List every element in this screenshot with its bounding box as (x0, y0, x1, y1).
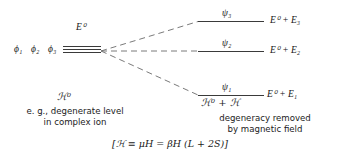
left-caption-line-1: e. g., degenerate level (0, 106, 150, 117)
degenerate-energy-level-triple (63, 46, 101, 53)
split-level-3-energy-label: E⁰ + E₃ (270, 16, 300, 26)
wavefunction-label-phi2: ϕ₂ (31, 45, 39, 55)
zeeman-splitting-diagram: ϕ₁ ϕ₂ ϕ₃ E⁰ ℋ⁰ e. g., degenerate level i… (0, 0, 340, 159)
split-level-2-energy-label: E⁰ + E₂ (270, 46, 300, 56)
wavefunction-label-phi1: ϕ₁ (14, 45, 22, 55)
degenerate-level-energy-label: E⁰ (76, 23, 86, 33)
hamiltonian-formula: [ℋ ≡ μH = βH (L + 2S)] (0, 139, 340, 149)
split-level-1-wavefunction-label: ψ₁ (222, 83, 231, 93)
degenerate-level-line-bottom (63, 52, 101, 53)
left-hamiltonian-label: ℋ⁰ (57, 92, 71, 102)
split-level-3-wavefunction-label: ψ₃ (222, 9, 231, 19)
split-level-1-energy-label: E⁰ + E₁ (267, 90, 297, 100)
right-hamiltonian-label: ℋ⁰ + ℋ (201, 98, 240, 108)
split-level-2-wavefunction-label: ψ₂ (222, 39, 231, 49)
hamiltonian-formula-text: [ℋ ≡ μH = βH (L + 2S)] (112, 138, 228, 149)
right-caption: degeneracy removed by magnetic field (190, 113, 340, 136)
split-level-1-line (198, 95, 264, 96)
left-caption-line-2: in complex ion (0, 117, 150, 128)
split-level-2-line (198, 51, 264, 52)
left-caption: e. g., degenerate level in complex ion (0, 106, 150, 129)
connector-line-to-level-1 (101, 51, 198, 95)
split-level-3-line (198, 21, 264, 22)
connector-line-to-level-3 (101, 22, 198, 52)
right-caption-line-1: degeneracy removed (190, 113, 340, 124)
wavefunction-label-phi3: ϕ₃ (48, 45, 56, 55)
right-caption-line-2: by magnetic field (190, 124, 340, 135)
